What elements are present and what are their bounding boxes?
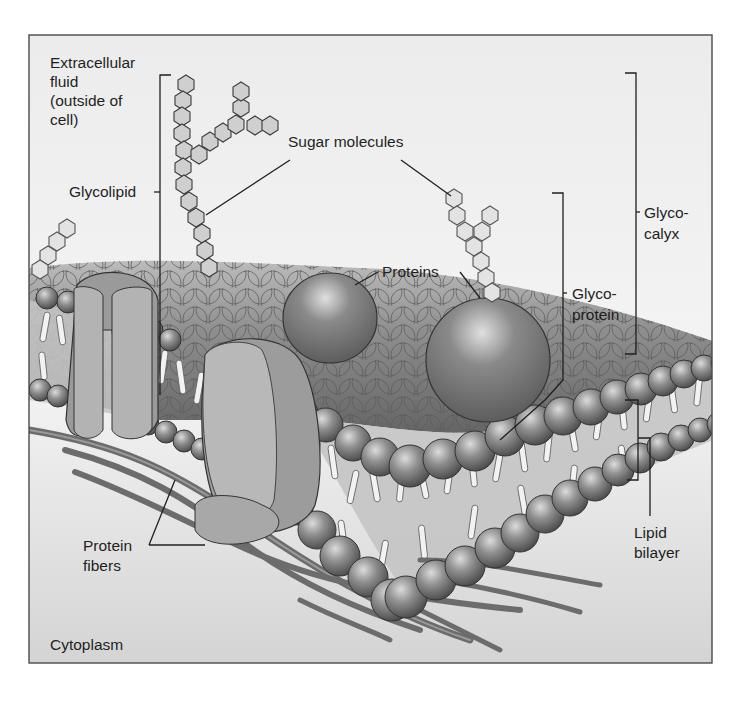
glycoprotein-globule	[426, 298, 550, 422]
label-glycolipid: Glycolipid	[69, 183, 136, 200]
plasma-membrane-diagram: Extracellular fluid (outside of cell) Su…	[0, 0, 738, 706]
label-cytoplasm: Cytoplasm	[50, 636, 123, 653]
transmembrane-protein	[195, 339, 320, 544]
surface-protein	[283, 273, 377, 363]
channel-protein	[66, 272, 158, 438]
label-proteins: Proteins	[382, 263, 439, 280]
label-sugar-molecules: Sugar molecules	[288, 133, 404, 150]
